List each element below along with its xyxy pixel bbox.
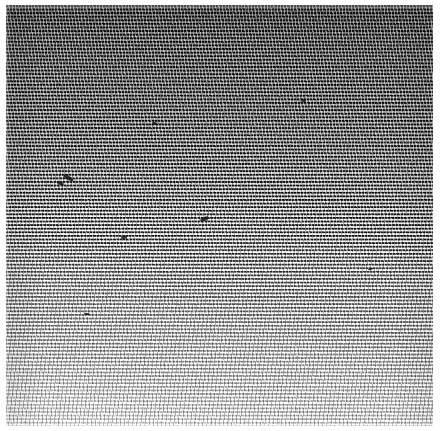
plate-title: Halftone screened grayscale plate	[0, 0, 1, 1]
image-page: Halftone screened grayscale plate	[0, 0, 441, 431]
halftone-plate	[6, 5, 433, 426]
defect-mark-4	[152, 122, 157, 126]
vignette-layer	[6, 5, 433, 426]
plate-caption	[0, 0, 1, 1]
